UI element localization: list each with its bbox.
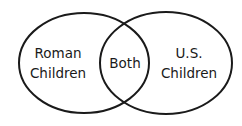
left-set-label: Roman Children [22,43,94,83]
right-set-label-line-1: U.S. [153,43,225,63]
right-set-label: U.S. Children [153,43,225,83]
intersection-label: Both [104,53,146,73]
left-set-label-line-1: Roman [22,43,94,63]
left-set-label-line-2: Children [22,63,94,83]
right-set-label-line-2: Children [153,63,225,83]
